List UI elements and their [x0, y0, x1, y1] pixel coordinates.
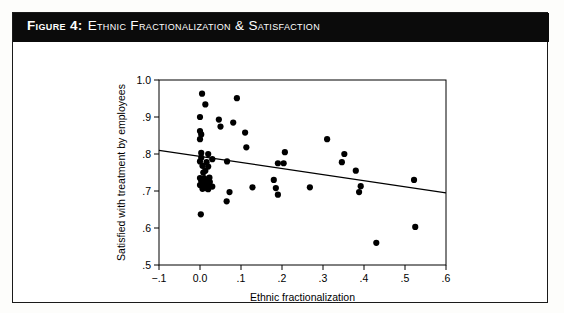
data-point	[217, 124, 223, 130]
data-point	[275, 192, 281, 198]
data-point	[353, 168, 359, 174]
data-point	[356, 189, 362, 195]
x-tick-label: −.1	[152, 272, 167, 284]
x-tick-label: .1	[237, 272, 246, 284]
y-tick-label: .5	[142, 259, 151, 271]
y-tick-label: 1.0	[136, 74, 151, 86]
data-point	[226, 189, 232, 195]
y-tick-label: .6	[142, 222, 151, 234]
data-point	[197, 136, 203, 142]
x-tick-label: .6	[442, 272, 451, 284]
x-tick-label: .5	[401, 272, 410, 284]
data-point	[243, 144, 249, 150]
data-point	[216, 116, 222, 122]
data-point	[339, 159, 345, 165]
figure-caption-text: Ethnic Fractionalization & Satisfaction	[88, 18, 320, 33]
data-point	[412, 224, 418, 230]
scatter-plot: −.10.0.1.2.3.4.5.6.5.6.7.8.91.0 Ethnic f…	[13, 42, 549, 303]
y-tick-label: .8	[142, 148, 151, 160]
data-point	[271, 177, 277, 183]
y-tick-label: .9	[142, 111, 151, 123]
data-point	[197, 114, 203, 120]
data-point	[307, 184, 313, 190]
x-axis-title: Ethnic fractionalization	[250, 291, 355, 303]
data-point	[373, 240, 379, 246]
data-point	[209, 156, 215, 162]
figure-caption: Figure 4:Ethnic Fractionalization & Sati…	[27, 18, 320, 33]
data-point	[202, 101, 208, 107]
x-tick-label: .3	[319, 272, 328, 284]
data-point	[205, 151, 211, 157]
data-point	[198, 211, 204, 217]
data-point	[242, 129, 248, 135]
figure-container: Figure 4:Ethnic Fractionalization & Sati…	[12, 12, 548, 303]
data-point	[199, 91, 205, 97]
data-point	[341, 151, 347, 157]
x-tick-label: .4	[360, 272, 369, 284]
figure-number: Figure 4:	[27, 18, 83, 33]
data-point	[200, 169, 206, 175]
y-tick-label: .7	[142, 185, 151, 197]
chart-svg: −.10.0.1.2.3.4.5.6.5.6.7.8.91.0 Ethnic f…	[13, 42, 549, 303]
data-point	[224, 158, 230, 164]
data-point	[234, 95, 240, 101]
data-point	[230, 119, 236, 125]
data-point	[275, 160, 281, 166]
figure-title-bar: Figure 4:Ethnic Fractionalization & Sati…	[13, 13, 549, 42]
data-point	[209, 183, 215, 189]
y-axis-title: Satisfied with treatment by employees	[115, 84, 127, 261]
data-point	[282, 149, 288, 155]
data-points-layer	[197, 91, 418, 246]
data-point	[281, 160, 287, 166]
x-tick-label: .2	[278, 272, 287, 284]
data-point	[224, 198, 230, 204]
chart-axes: −.10.0.1.2.3.4.5.6.5.6.7.8.91.0	[136, 74, 450, 284]
axis-labels-layer: Ethnic fractionalizationSatisfied with t…	[115, 84, 355, 303]
data-point	[324, 136, 330, 142]
data-point	[249, 184, 255, 190]
x-tick-label: 0.0	[193, 272, 208, 284]
data-point	[199, 186, 205, 192]
data-point	[358, 183, 364, 189]
data-point	[411, 177, 417, 183]
data-point	[273, 185, 279, 191]
